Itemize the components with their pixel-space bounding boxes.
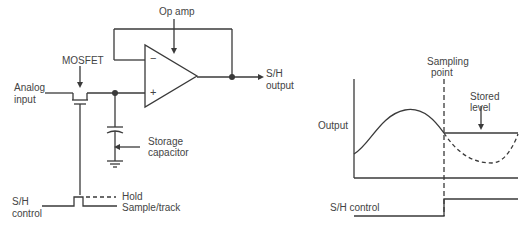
sampling-point-label-line1: Sampling [427, 56, 469, 67]
mosfet-label: MOSFET [62, 55, 104, 66]
junction-dot-output [229, 74, 235, 80]
junction-dot-input [112, 90, 118, 96]
diagram-canvas [0, 0, 528, 232]
op-amp-label: Op amp [159, 6, 195, 17]
stored-level-label-line2: level [470, 102, 491, 113]
sampling-point-label-line2: point [431, 67, 453, 78]
waveform-sh-control-label: S/H control [330, 202, 379, 213]
opamp-arrowhead-icon [171, 48, 177, 54]
opamp-minus-sign: − [150, 53, 156, 64]
sample-track-label: Sample/track [122, 202, 180, 213]
output-curve [354, 109, 444, 154]
output-arrowhead-icon [258, 74, 264, 80]
analog-input-label-line2: input [14, 94, 36, 105]
hold-label: Hold [122, 191, 143, 202]
storage-capacitor-label-line1: Storage [148, 136, 183, 147]
opamp-plus-sign: + [150, 87, 156, 98]
sh-output-label-line1: S/H [266, 68, 283, 79]
stored-level-label-line1: Stored [470, 91, 499, 102]
sh-control-label-line2: control [12, 208, 42, 219]
stored-level-arrowhead-icon [478, 124, 484, 130]
sh-control-pulse [42, 197, 117, 206]
storage-capacitor-label-line2: capacitor [148, 147, 189, 158]
sh-output-label-line2: output [266, 80, 294, 91]
sh-control-label-line1: S/H [12, 196, 29, 207]
signal-continuation-dashed [444, 133, 518, 163]
output-axis-label: Output [318, 120, 348, 131]
mosfet-arrowhead-icon [77, 82, 83, 88]
analog-input-label-line1: Analog [14, 82, 45, 93]
